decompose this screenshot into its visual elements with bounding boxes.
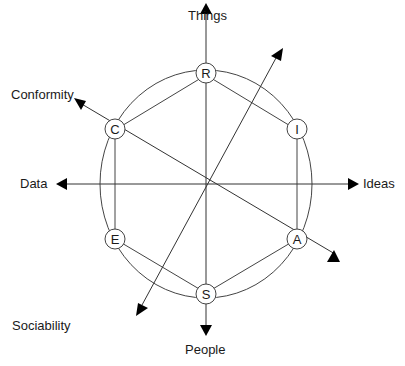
arrow-downright-icon: [327, 250, 340, 262]
sociability-axis: [142, 58, 276, 305]
arrow-down-icon: [200, 325, 212, 336]
svg-text:R: R: [201, 66, 210, 81]
label-people: People: [185, 342, 225, 357]
hexagon-diagram: R I A S E C: [0, 0, 405, 366]
node-i: I: [287, 119, 307, 139]
node-s: S: [196, 284, 216, 304]
label-things: Things: [188, 8, 227, 23]
svg-text:I: I: [295, 122, 299, 137]
svg-text:E: E: [111, 232, 120, 247]
label-conformity: Conformity: [11, 87, 74, 102]
node-e: E: [105, 229, 125, 249]
arrow-upright-icon: [271, 48, 283, 61]
label-data: Data: [20, 176, 47, 191]
node-r: R: [196, 63, 216, 83]
arrow-upleft-icon: [74, 98, 86, 110]
svg-text:S: S: [202, 287, 211, 302]
axes: [66, 14, 348, 325]
node-c: C: [105, 119, 125, 139]
node-a: A: [287, 229, 307, 249]
arrow-right-icon: [348, 178, 359, 190]
label-ideas: Ideas: [363, 176, 395, 191]
label-sociability: Sociability: [12, 318, 71, 333]
svg-text:A: A: [293, 232, 302, 247]
svg-text:C: C: [110, 122, 119, 137]
arrow-left-icon: [56, 178, 67, 190]
